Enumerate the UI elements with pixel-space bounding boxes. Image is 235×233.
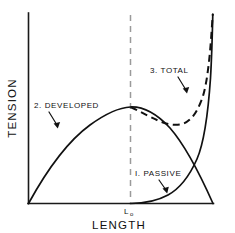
y-axis-title: TENSION xyxy=(6,78,18,138)
annotation-total: 3. TOTAL xyxy=(150,66,189,94)
x-tick-lo-group: L o xyxy=(124,207,134,217)
annotation-passive-arrow-head xyxy=(163,187,169,194)
curve-developed-group xyxy=(29,107,214,204)
annotation-developed-arrow-head xyxy=(54,122,61,129)
annotation-passive-label: I. PASSIVE xyxy=(135,169,181,178)
curve-developed xyxy=(29,107,214,204)
annotation-developed: 2. DEVELOPED xyxy=(34,101,99,129)
x-axis-title: LENGTH xyxy=(92,219,146,231)
length-tension-figure: 2. DEVELOPED I. PASSIVE 3. TOTAL L o LEN… xyxy=(0,0,235,233)
plot-canvas: 2. DEVELOPED I. PASSIVE 3. TOTAL L o LEN… xyxy=(0,0,235,233)
annotation-developed-label: 2. DEVELOPED xyxy=(34,101,99,110)
x-tick-lo-label: L xyxy=(124,207,129,216)
x-tick-lo-subscript: o xyxy=(130,211,134,217)
annotation-total-label: 3. TOTAL xyxy=(150,66,189,75)
annotation-total-arrow-head xyxy=(183,87,190,94)
